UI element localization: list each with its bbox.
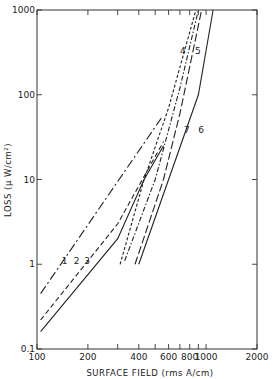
loss-vs-surface-field-chart: 10020040060080010002000 0.11101001000 12… bbox=[0, 0, 274, 379]
curve-label: 7 bbox=[184, 125, 190, 135]
curve-label: 5 bbox=[195, 46, 201, 56]
y-tick-label: 0.1 bbox=[21, 344, 35, 354]
x-tick-label: 600 bbox=[160, 352, 177, 362]
x-tick-label: 400 bbox=[130, 352, 147, 362]
x-tick-label: 2000 bbox=[246, 352, 269, 362]
x-axis-label: SURFACE FIELD (rms A/cm) bbox=[86, 368, 213, 378]
curve-6 bbox=[139, 10, 213, 264]
x-tick-label: 200 bbox=[79, 352, 96, 362]
y-axis-label: LOSS (μ W/cm²) bbox=[3, 143, 13, 217]
curve-label: 4 bbox=[180, 46, 186, 56]
x-tick-label: 1000 bbox=[195, 352, 218, 362]
y-tick-label: 1000 bbox=[12, 5, 35, 15]
x-axis-ticks: 10020040060080010002000 bbox=[28, 10, 268, 362]
curve-labels: 1234567 bbox=[62, 46, 205, 266]
curve-label: 3 bbox=[84, 256, 90, 266]
y-axis-ticks: 0.11101001000 bbox=[12, 5, 257, 354]
y-tick-label: 1 bbox=[29, 259, 35, 269]
curve-label: 1 bbox=[62, 256, 68, 266]
curve-label: 6 bbox=[198, 125, 204, 135]
data-curves bbox=[41, 10, 214, 332]
curve-2 bbox=[41, 142, 164, 320]
y-tick-label: 10 bbox=[24, 175, 36, 185]
plot-frame bbox=[37, 10, 257, 349]
curve-7 bbox=[135, 10, 202, 264]
y-tick-label: 100 bbox=[18, 90, 35, 100]
curve-1 bbox=[41, 117, 163, 294]
curve-label: 2 bbox=[74, 256, 80, 266]
